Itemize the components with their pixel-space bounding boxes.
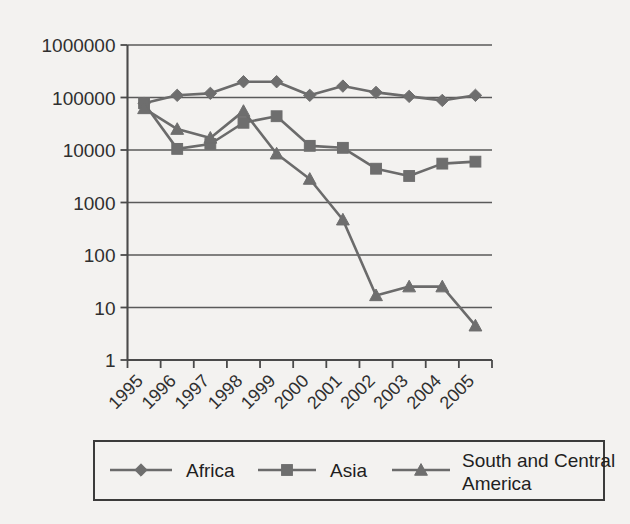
y-axis-tick-label: 1000000 (42, 35, 116, 56)
square-icon (282, 465, 293, 476)
square-icon (271, 111, 282, 122)
legend-label: Asia (330, 460, 367, 481)
square-icon (437, 158, 448, 169)
y-axis-tick-label: 1 (105, 350, 116, 371)
y-axis-tick-label: 10000 (63, 140, 116, 161)
square-icon (304, 140, 315, 151)
y-axis-tick-label: 100000 (52, 88, 115, 109)
y-axis-tick-label: 10 (94, 298, 115, 319)
chart-container: 1101001000100001000001000000 19951996199… (0, 0, 630, 524)
square-icon (238, 117, 249, 128)
square-icon (337, 142, 348, 153)
legend-label: Africa (186, 460, 235, 481)
square-icon (404, 171, 415, 182)
square-icon (470, 156, 481, 167)
y-axis-tick-label: 1000 (73, 193, 115, 214)
square-icon (172, 143, 183, 154)
square-icon (371, 163, 382, 174)
legend-label: South and Central (462, 450, 615, 471)
log-line-chart: 1101001000100001000001000000 19951996199… (0, 0, 630, 524)
legend-label-line2: America (462, 473, 532, 494)
y-axis-tick-label: 100 (84, 245, 116, 266)
